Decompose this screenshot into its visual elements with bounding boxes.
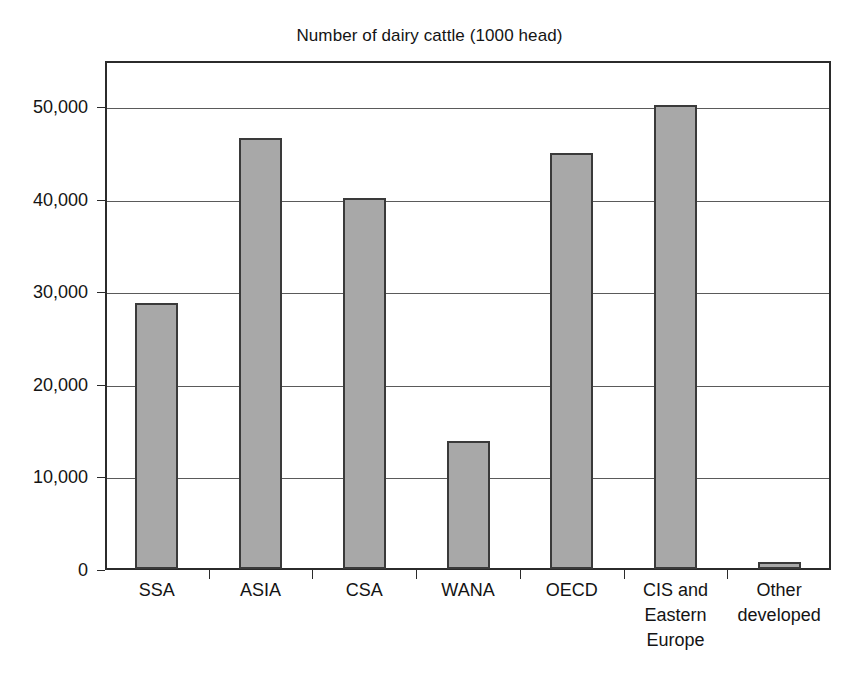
bar-asia (239, 138, 282, 569)
bar-other-developed (758, 562, 801, 569)
y-tick-label-0: 0 (78, 560, 88, 581)
y-tick-label-20000: 20,000 (33, 374, 88, 395)
x-tick-label-line: CSA (312, 578, 416, 603)
y-axis-tick-marks (97, 0, 105, 678)
y-tick-mark-10000 (97, 477, 105, 478)
bar-cis-and-eastern-europe (654, 105, 697, 569)
y-tick-mark-40000 (97, 200, 105, 201)
y-tick-mark-20000 (97, 385, 105, 386)
bars-group (105, 61, 831, 569)
x-tick-label-ssa: SSA (105, 578, 209, 603)
x-tick-label-oecd: OECD (520, 578, 624, 603)
bar-csa (343, 198, 386, 569)
x-tick-label-wana: WANA (416, 578, 520, 603)
bar-oecd (550, 153, 593, 569)
y-tick-label-30000: 30,000 (33, 282, 88, 303)
y-tick-label-40000: 40,000 (33, 189, 88, 210)
y-tick-label-10000: 10,000 (33, 467, 88, 488)
x-tick-label-line: SSA (105, 578, 209, 603)
x-tick-label-line: CIS and (624, 578, 728, 603)
x-tick-label-line: Other (727, 578, 831, 603)
x-tick-label-other-developed: Otherdeveloped (727, 578, 831, 628)
x-tick-label-line: Eastern (624, 603, 728, 628)
chart-title: Number of dairy cattle (1000 head) (0, 26, 859, 46)
x-tick-label-line: ASIA (209, 578, 313, 603)
x-tick-label-csa: CSA (312, 578, 416, 603)
y-tick-label-50000: 50,000 (33, 97, 88, 118)
bar-chart: Number of dairy cattle (1000 head) 010,0… (0, 0, 859, 678)
x-axis-tick-labels: SSAASIACSAWANAOECDCIS andEasternEuropeOt… (105, 578, 831, 678)
y-tick-mark-0 (97, 570, 105, 571)
x-tick-label-line: Europe (624, 628, 728, 653)
y-tick-mark-50000 (97, 107, 105, 108)
y-tick-mark-30000 (97, 292, 105, 293)
x-tick-label-cis-and-eastern-europe: CIS andEasternEurope (624, 578, 728, 653)
x-tick-label-line: WANA (416, 578, 520, 603)
y-axis-tick-labels: 010,00020,00030,00040,00050,000 (0, 0, 88, 678)
x-tick-label-line: OECD (520, 578, 624, 603)
x-tick-label-line: developed (727, 603, 831, 628)
x-tick-label-asia: ASIA (209, 578, 313, 603)
bar-ssa (135, 303, 178, 569)
bar-wana (447, 441, 490, 569)
